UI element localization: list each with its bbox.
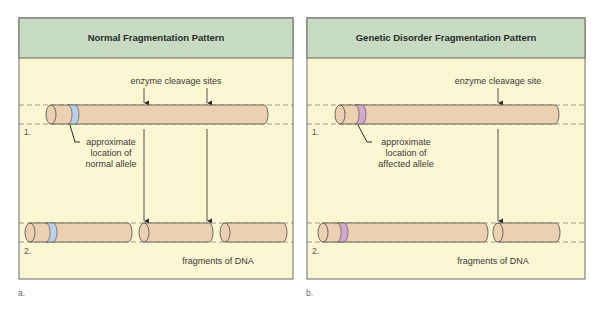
panel-title: Genetic Disorder Fragmentation Pattern — [356, 32, 537, 43]
allele-label-line2: location of — [385, 148, 427, 158]
fragments-label: fragments of DNA — [182, 256, 254, 266]
cleavage-site-label: enzyme cleavage site — [455, 76, 542, 86]
cleavage-sites-label: enzyme cleavage sites — [130, 76, 222, 86]
row-label-1: 1. — [312, 127, 319, 137]
allele-label-line3: normal allele — [85, 159, 136, 169]
allele-label-line3: affected allele — [378, 159, 433, 169]
allele-label-line1: approximate — [86, 137, 136, 147]
row-label-2: 2. — [312, 246, 319, 256]
dna-fragment-2 — [493, 223, 560, 242]
allele-label-line1: approximate — [381, 137, 431, 147]
panel-title: Normal Fragmentation Pattern — [88, 32, 225, 43]
diagram-canvas: Normal Fragmentation Pattern enzyme clea… — [0, 0, 598, 310]
dna-fragment-2 — [139, 223, 213, 242]
panel-caption-b: b. — [306, 288, 313, 298]
panel-genetic-disorder: Genetic Disorder Fragmentation Pattern e… — [307, 18, 585, 279]
panel-normal: Normal Fragmentation Pattern enzyme clea… — [19, 18, 293, 279]
allele-label-line2: location of — [90, 148, 132, 158]
fragments-label: fragments of DNA — [457, 256, 529, 266]
dna-fragment-1 — [318, 223, 488, 242]
panel-caption-a: a. — [18, 288, 25, 298]
row-label-1: 1. — [24, 127, 31, 137]
dna-strand-full — [46, 105, 268, 124]
dna-fragment-1 — [25, 223, 132, 242]
dna-strand-full — [335, 105, 559, 124]
dna-fragment-3 — [220, 223, 287, 242]
row-label-2: 2. — [24, 246, 31, 256]
